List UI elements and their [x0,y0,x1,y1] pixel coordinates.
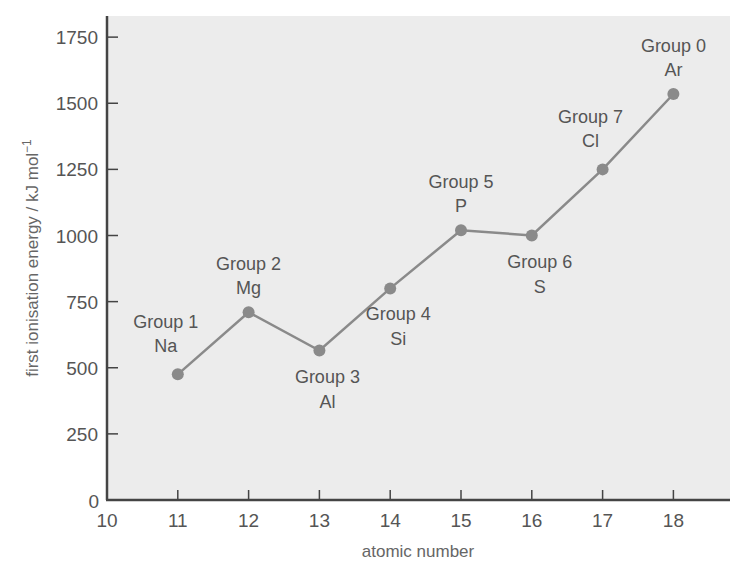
annotation-group: Group 2 [216,254,281,274]
x-tick-label: 16 [521,510,542,531]
data-point [597,163,609,175]
annotation-group: Group 4 [366,304,431,324]
x-tick-label: 10 [96,510,117,531]
annotation-element: S [534,277,546,297]
annotation-group: Group 3 [295,367,360,387]
annotation-group: Group 5 [428,172,493,192]
y-tick-label: 1250 [56,159,98,180]
annotation-group: Group 1 [133,312,198,332]
y-tick-label: 0 [88,491,99,512]
annotation-element: Ar [664,60,682,80]
x-tick-label: 14 [380,510,402,531]
y-tick-label: 1750 [56,27,98,48]
x-tick-label: 12 [238,510,259,531]
y-axis-title-superscript: −1 [20,139,34,153]
annotation-group: Group 0 [641,36,706,56]
ionisation-energy-chart: Group 1NaGroup 2MgGroup 3AlGroup 4SiGrou… [0,0,746,575]
y-tick-label: 1500 [56,93,98,114]
y-tick-label: 750 [66,292,98,313]
data-point [172,368,184,380]
y-tick-label: 1000 [56,226,98,247]
annotation-element: P [455,196,467,216]
annotation-element: Cl [582,131,599,151]
x-tick-label: 17 [592,510,613,531]
data-point [243,306,255,318]
annotation-element: Al [319,392,335,412]
data-point [667,88,679,100]
x-tick-label: 15 [450,510,471,531]
plot-area [107,16,730,500]
x-tick-label: 11 [168,510,188,531]
annotation-element: Na [154,336,178,356]
data-point [526,230,538,242]
annotation-group: Group 6 [507,252,572,272]
x-tick-label: 13 [309,510,330,531]
data-point [455,224,467,236]
annotation-element: Mg [236,278,261,298]
y-tick-label: 250 [66,424,98,445]
annotation-element: Si [390,329,406,349]
y-tick-label: 500 [66,358,98,379]
x-tick-label: 18 [663,510,684,531]
y-axis-title: first ionisation energy / kJ mol−1 [20,139,42,377]
data-point [313,345,325,357]
data-point [384,282,396,294]
x-axis-title: atomic number [362,542,475,561]
annotation-group: Group 7 [558,107,623,127]
y-axis-title-text: first ionisation energy / kJ mol [23,153,42,377]
